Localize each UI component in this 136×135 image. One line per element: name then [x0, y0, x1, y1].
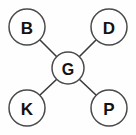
node-p[interactable]: P [91, 90, 127, 126]
node-d[interactable]: D [91, 9, 127, 45]
node-b-label: B [21, 19, 33, 38]
node-g-label: G [62, 61, 74, 78]
node-link-diagram: B D K P G [0, 0, 136, 135]
node-d-label: D [103, 19, 115, 38]
node-k[interactable]: K [9, 90, 45, 126]
node-k-label: K [21, 100, 34, 119]
node-b[interactable]: B [9, 9, 45, 45]
node-p-label: P [103, 100, 114, 119]
node-g[interactable]: G [52, 52, 84, 84]
